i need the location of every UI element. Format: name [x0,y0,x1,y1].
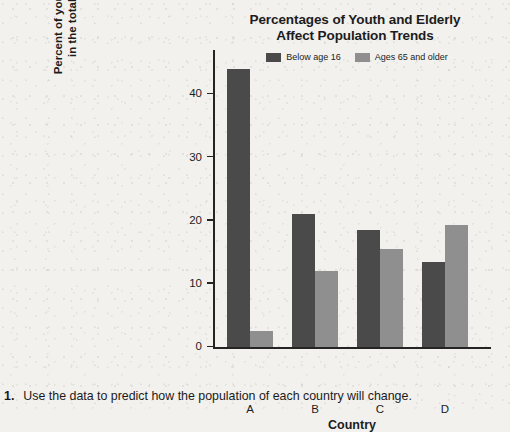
question-text: Use the data to predict how the populati… [23,389,411,403]
x-axis-line [213,347,491,349]
bar-b-series-2 [315,271,338,347]
bar-d-series-2 [445,225,468,347]
question-number: 1. [4,389,14,403]
x-category-label-a: A [227,403,273,415]
x-axis-title: Country [213,418,491,432]
chart-title-line-1: Percentages of Youth and Elderly [250,12,461,27]
y-tick-label-0: 0 [196,340,202,352]
x-category-label-d: D [422,403,468,415]
bar-a-series-1 [227,69,250,347]
bars-layer [213,50,491,347]
y-tick-label-10: 10 [189,277,202,289]
bar-c-series-1 [357,230,380,347]
y-tick-label-30: 30 [189,151,202,163]
bar-b-series-1 [292,214,315,347]
bar-a-series-2 [250,331,273,347]
question-row: 1. Use the data to predict how the popul… [4,389,412,403]
y-tick-label-40: 40 [189,87,202,99]
y-axis-title-line-1: Percent of youth and elderly [51,0,65,102]
plot-area: Percent of youth and elderly in the tota… [213,50,491,349]
bar-chart-figure: Percentages of Youth and Elderly Affect … [0,0,510,382]
chart-title-line-2: Affect Population Trends [215,28,495,44]
bar-d-series-1 [422,262,445,347]
x-category-label-b: B [292,403,338,415]
y-axis-title: Percent of youth and elderly in the tota… [51,0,79,102]
bar-c-series-2 [380,249,403,347]
x-category-label-c: C [357,403,403,415]
y-tick-label-20: 20 [189,214,202,226]
y-axis-title-line-2: in the total population [65,0,79,102]
chart-title: Percentages of Youth and Elderly Affect … [215,12,495,44]
